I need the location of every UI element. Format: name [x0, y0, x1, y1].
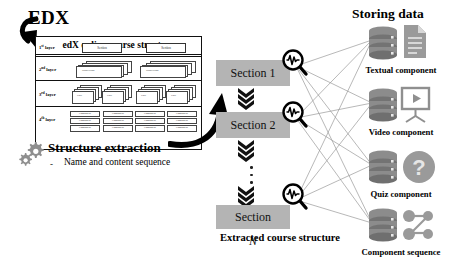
node-graph-icon: [403, 210, 433, 240]
store-item-textual: Textual component: [346, 24, 456, 75]
store-item-label: Video component: [346, 127, 456, 137]
storing-data-title: Storing data: [352, 6, 424, 22]
section-1-box[interactable]: Section 1: [216, 60, 290, 86]
magnifier-waveform-icon[interactable]: [280, 100, 310, 130]
database-icon: [369, 208, 397, 241]
store-item-video: Video component: [346, 86, 456, 137]
figure-canvas: EDX edX online course structure 1st laye…: [0, 0, 457, 262]
database-icon: [369, 150, 397, 183]
document-icon: [404, 25, 426, 58]
section-2-box[interactable]: Section 2: [216, 112, 290, 138]
magnifier-waveform-icon[interactable]: [280, 48, 310, 78]
database-icon: [369, 26, 397, 59]
database-icon: [369, 88, 397, 121]
store-item-label: Quiz component: [346, 189, 456, 199]
section-n-label: Section N: [216, 205, 290, 253]
store-item-sequence: Component sequence: [346, 206, 456, 257]
extracted-structure-caption: Extracted course structure: [220, 232, 340, 243]
section-1-label: Section 1: [216, 60, 290, 86]
triple-chevron-down-icon: [238, 88, 254, 110]
triple-chevron-down-icon: [238, 140, 254, 162]
store-item-label: Textual component: [346, 65, 456, 75]
section-n-box[interactable]: Section N: [216, 205, 290, 229]
question-mark-icon: ?: [403, 151, 435, 183]
store-item-quiz: ? Quiz component: [346, 148, 456, 199]
video-projector-icon: [402, 88, 429, 122]
section-2-label: Section 2: [216, 112, 290, 138]
svg-text:?: ?: [412, 155, 425, 180]
magnifier-waveform-icon[interactable]: [280, 182, 310, 212]
store-item-label: Component sequence: [346, 247, 456, 257]
